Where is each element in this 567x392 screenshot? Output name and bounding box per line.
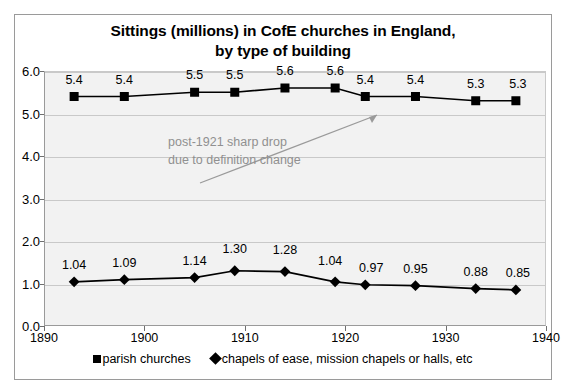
data-point-label: 0.85 bbox=[506, 266, 530, 280]
data-point-label: 1.09 bbox=[112, 256, 136, 270]
series-marker-diamond bbox=[330, 276, 341, 287]
data-point-label: 5.3 bbox=[509, 77, 526, 91]
legend-square-icon bbox=[93, 355, 101, 363]
data-point-label: 1.30 bbox=[223, 242, 247, 256]
data-point-label: 5.5 bbox=[226, 68, 243, 82]
data-point-label: 5.4 bbox=[65, 73, 82, 87]
chart-container: Sittings (millions) in CofE churches in … bbox=[14, 14, 552, 380]
data-point-label: 5.5 bbox=[186, 68, 203, 82]
series-marker-diamond bbox=[69, 276, 80, 287]
series-marker-diamond bbox=[410, 280, 421, 291]
data-point-label: 0.97 bbox=[359, 261, 383, 275]
chart-legend: parish churcheschapels of ease, mission … bbox=[15, 351, 551, 366]
series-marker-square bbox=[230, 88, 239, 97]
annotation-line-2: due to definition change bbox=[168, 151, 301, 169]
legend-entry[interactable]: chapels of ease, mission chapels or hall… bbox=[209, 351, 473, 366]
series-marker-square bbox=[280, 84, 289, 93]
series-marker-square bbox=[190, 88, 199, 97]
data-point-label: 5.4 bbox=[407, 73, 424, 87]
series-paths bbox=[69, 84, 522, 296]
legend-diamond-icon bbox=[209, 352, 222, 365]
legend-label: chapels of ease, mission chapels or hall… bbox=[222, 352, 473, 366]
annotation-line-1: post-1921 sharp drop bbox=[168, 133, 301, 151]
series-marker-diamond bbox=[470, 283, 481, 294]
legend-entry[interactable]: parish churches bbox=[93, 351, 190, 366]
data-point-label: 5.6 bbox=[326, 64, 343, 78]
legend-label: parish churches bbox=[102, 352, 190, 366]
series-marker-square bbox=[120, 92, 129, 101]
series-marker-diamond bbox=[119, 274, 130, 285]
data-point-label: 5.4 bbox=[357, 73, 374, 87]
series-marker-diamond bbox=[189, 272, 200, 283]
data-point-label: 1.04 bbox=[318, 254, 342, 268]
data-point-label: 1.14 bbox=[182, 254, 206, 268]
series-line bbox=[74, 88, 516, 101]
series-marker-diamond bbox=[510, 284, 521, 295]
data-point-label: 5.4 bbox=[116, 73, 133, 87]
series-marker-diamond bbox=[229, 265, 240, 276]
data-point-label: 5.6 bbox=[276, 64, 293, 78]
series-marker-diamond bbox=[280, 266, 291, 277]
series-line bbox=[74, 271, 516, 290]
series-marker-square bbox=[70, 92, 79, 101]
data-point-label: 0.95 bbox=[403, 262, 427, 276]
series-marker-square bbox=[511, 96, 520, 105]
data-point-label: 1.28 bbox=[273, 243, 297, 257]
annotation-arrow-head bbox=[369, 115, 377, 123]
series-marker-diamond bbox=[360, 279, 371, 290]
series-marker-square bbox=[411, 92, 420, 101]
series-marker-square bbox=[331, 84, 340, 93]
data-point-label: 5.3 bbox=[467, 77, 484, 91]
data-point-label: 1.04 bbox=[62, 258, 86, 272]
chart-annotation: post-1921 sharp drop due to definition c… bbox=[168, 133, 301, 169]
plot-wrapper: 0.01.02.03.04.05.06.0 189019001910192019… bbox=[15, 15, 553, 381]
series-marker-square bbox=[471, 96, 480, 105]
series-marker-square bbox=[361, 92, 370, 101]
data-point-label: 0.88 bbox=[464, 265, 488, 279]
